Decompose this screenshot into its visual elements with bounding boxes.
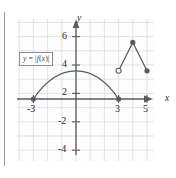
y-axis-name: y [77,14,81,24]
x-axis-name: x [165,94,169,104]
plot-area [17,19,154,161]
marker-closed-5-2 [144,68,149,73]
marker-closed-neg3-0 [31,96,36,101]
x-tick-label-5: 5 [143,104,148,114]
graph-figure: 6 4 2 -2 -4 -3 3 5 y x y = |f(x)| [0,0,176,178]
marker-open-3-2 [116,68,121,73]
function-label-eq: = [27,54,36,63]
page-margin-rule [4,12,5,166]
x-tick-label-3: 3 [115,104,120,114]
y-axis [73,20,80,156]
y-tick-label-2: 2 [62,87,67,97]
x-tick-label-neg3: -3 [27,104,35,114]
y-tick-label-neg4: -4 [58,144,66,154]
function-label-box: y = |f(x)| [19,52,53,66]
marker-closed-3-0 [116,96,121,101]
function-label-abs-close: | [48,54,50,63]
y-tick-label-neg2: -2 [58,116,66,126]
y-tick-label-4: 4 [62,59,67,69]
marker-closed-4-4 [130,40,135,45]
graph-svg [17,19,154,161]
y-tick-label-6: 6 [62,31,67,41]
